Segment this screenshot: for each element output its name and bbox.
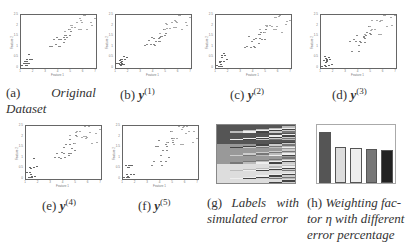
data-point <box>25 65 27 66</box>
data-point <box>88 126 90 127</box>
caption-text: simulated error <box>207 211 288 226</box>
bar-3 <box>350 148 362 183</box>
caption-c: (c) y(2) <box>230 83 264 103</box>
data-point <box>363 36 365 37</box>
data-point <box>64 157 66 158</box>
data-point <box>384 15 386 16</box>
data-point <box>26 172 28 173</box>
data-point <box>266 26 268 27</box>
data-point <box>162 150 164 151</box>
data-point <box>33 158 35 159</box>
caption-h: (h) Weighting fac- tor η with different … <box>307 195 411 243</box>
data-point <box>374 29 376 30</box>
data-point <box>250 47 252 48</box>
y-tick-label: 0 <box>103 65 113 69</box>
data-point <box>275 29 277 30</box>
data-point <box>264 39 266 40</box>
data-point <box>271 26 273 27</box>
data-point <box>370 34 372 35</box>
data-point <box>158 38 160 39</box>
data-point <box>68 155 70 156</box>
data-point <box>258 34 260 35</box>
data-point <box>64 39 66 40</box>
data-point <box>126 177 128 178</box>
y-tick-label: 2.5 <box>8 12 18 16</box>
data-point <box>168 157 170 158</box>
x-axis-label: Feature 1 <box>215 73 290 77</box>
data-point <box>359 41 361 42</box>
data-point <box>165 23 167 24</box>
data-point <box>56 153 58 154</box>
data-point <box>55 44 57 45</box>
data-point <box>151 165 153 166</box>
data-point <box>56 37 58 38</box>
data-point <box>254 47 256 48</box>
data-point <box>148 40 150 41</box>
data-point <box>158 41 160 42</box>
data-point <box>66 37 68 38</box>
data-point <box>33 167 35 168</box>
y-axis-label: Feature 2 <box>105 36 109 49</box>
data-point <box>74 150 76 151</box>
data-point <box>176 138 178 139</box>
data-point <box>89 132 91 133</box>
data-point <box>91 25 93 26</box>
data-point <box>146 44 148 45</box>
panel-d: 123456700.511.522.5Feature 1Feature 2 (d… <box>300 0 412 120</box>
y-axis-label: Feature 2 <box>310 36 314 49</box>
data-point <box>69 139 71 140</box>
y-tick-label: 2 <box>203 23 213 27</box>
data-point <box>81 22 83 23</box>
bar-1 <box>319 132 331 183</box>
caption-text: Dataset <box>6 101 46 116</box>
data-point <box>358 51 360 52</box>
data-point <box>186 25 188 26</box>
data-point <box>323 60 325 61</box>
data-point <box>391 25 393 26</box>
data-point <box>281 32 283 33</box>
data-point <box>116 63 118 64</box>
data-point <box>63 42 65 43</box>
data-point <box>30 174 32 175</box>
data-point <box>164 29 166 30</box>
y-tick-label: 2.5 <box>13 123 23 127</box>
data-point <box>76 136 78 137</box>
caption-label: (e) <box>42 198 56 213</box>
y-tick-label: 0 <box>8 65 18 69</box>
data-point <box>246 46 248 47</box>
scatter-plot-b: 123456700.511.522.5Feature 1Feature 2 <box>105 12 195 77</box>
caption-b: (b) y(1) <box>120 83 155 103</box>
data-point <box>121 59 123 60</box>
data-point <box>123 64 125 65</box>
data-point <box>220 66 222 67</box>
x-axis-label: Feature 1 <box>20 73 95 77</box>
data-point <box>192 142 194 143</box>
y-tick-label: 2.5 <box>110 123 120 127</box>
bar-chart-h <box>310 122 398 190</box>
data-point <box>189 17 191 18</box>
caption-label: (h) <box>307 195 322 210</box>
data-point <box>216 65 218 66</box>
data-point <box>188 131 190 132</box>
data-point <box>165 33 167 34</box>
data-point <box>358 45 360 46</box>
data-point <box>133 174 135 175</box>
caption-a: (a) Original Dataset <box>6 85 96 117</box>
data-point <box>123 177 125 178</box>
data-point <box>151 37 153 38</box>
data-point <box>26 59 28 60</box>
data-point <box>126 57 128 58</box>
data-point <box>34 176 36 177</box>
data-point <box>124 59 126 60</box>
data-point <box>90 22 92 23</box>
data-point <box>196 138 198 139</box>
data-point <box>326 59 328 60</box>
data-point <box>171 22 173 23</box>
data-point <box>79 18 81 19</box>
data-point <box>75 132 77 133</box>
data-point <box>157 146 159 147</box>
data-point <box>128 177 130 178</box>
data-point <box>30 168 32 169</box>
data-point <box>182 144 184 145</box>
data-point <box>65 35 67 36</box>
